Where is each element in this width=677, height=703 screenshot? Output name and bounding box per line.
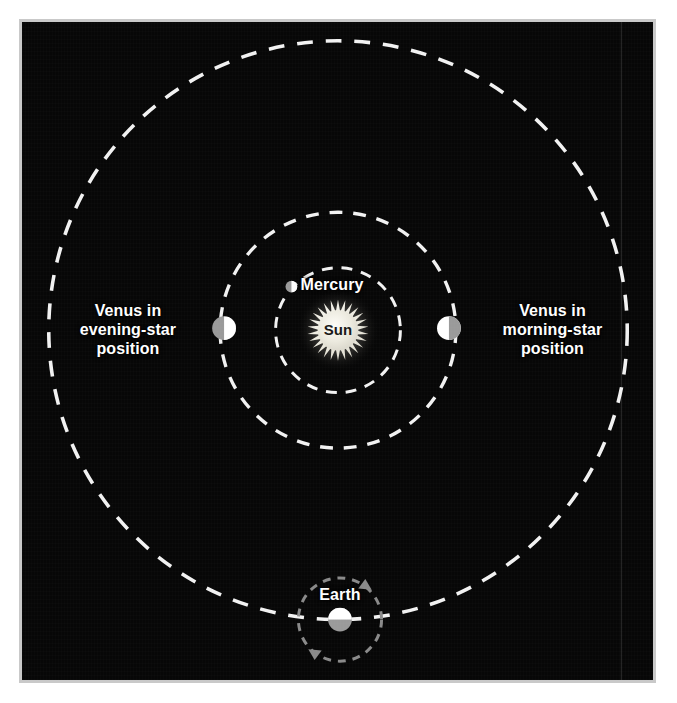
label-venus-evening-star: Venus in evening-star position [48, 302, 208, 359]
diagram-root: Sun Mercury Earth Venus in evening-star … [0, 0, 677, 703]
label-venus-morning-star: Venus in morning-star position [470, 302, 635, 359]
earth-body [328, 608, 352, 632]
venus-morning-body [437, 316, 461, 340]
venus-evening-body [212, 316, 236, 340]
label-mercury: Mercury [247, 276, 417, 295]
label-sun: Sun [288, 321, 388, 339]
label-earth: Earth [285, 586, 395, 605]
